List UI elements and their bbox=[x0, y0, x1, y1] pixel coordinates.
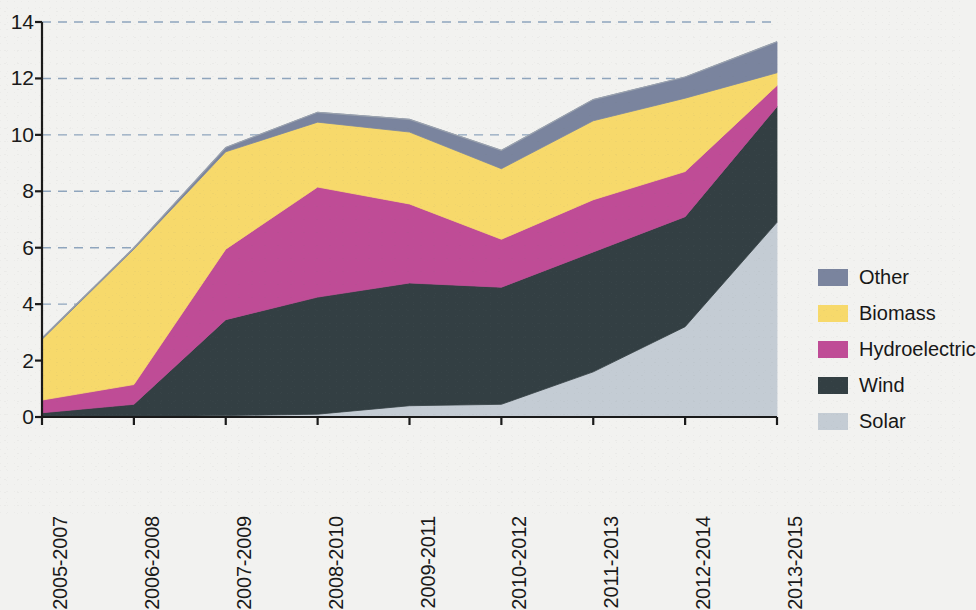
legend-item-hydroelectric[interactable]: Hydroelectric bbox=[818, 334, 962, 364]
x-axis-tick-label: 2013-2015 bbox=[777, 516, 800, 610]
x-axis-tick-label: 2006-2008 bbox=[134, 516, 157, 610]
y-axis-tick-label: 10 bbox=[2, 124, 34, 145]
x-axis-tick-label-text: 2009-2011 bbox=[417, 516, 440, 608]
legend-swatch-biomass bbox=[818, 305, 848, 322]
legend-swatch-other bbox=[818, 269, 848, 286]
x-axis-tick-label: 2005-2007 bbox=[42, 516, 65, 610]
y-axis-tick-label: 4 bbox=[2, 293, 34, 314]
x-axis-tick-label-text: 2007-2009 bbox=[233, 516, 256, 610]
legend-label: Solar bbox=[859, 411, 906, 431]
legend-item-solar[interactable]: Solar bbox=[818, 406, 962, 436]
x-axis-tick-label-text: 2012-2014 bbox=[692, 516, 715, 610]
x-axis-tick-label: 2007-2009 bbox=[226, 516, 249, 610]
y-axis-tick-label: 12 bbox=[2, 67, 34, 88]
legend-swatch-wind bbox=[818, 377, 848, 394]
x-axis-tick-label: 2012-2014 bbox=[685, 516, 708, 610]
x-axis-tick-label-text: 2006-2008 bbox=[141, 516, 164, 610]
legend-label: Biomass bbox=[859, 303, 936, 323]
x-axis-tick-labels: 2005-20072006-20082007-20092008-20102009… bbox=[0, 420, 820, 518]
x-axis-tick-label: 2011-2013 bbox=[593, 516, 616, 608]
y-axis-tick-label: 8 bbox=[2, 180, 34, 201]
y-axis-tick-label: 14 bbox=[2, 11, 34, 32]
legend-item-other[interactable]: Other bbox=[818, 262, 962, 292]
legend-swatch-hydroelectric bbox=[818, 341, 848, 358]
legend-label: Other bbox=[859, 267, 909, 287]
x-axis-tick-label: 2008-2010 bbox=[318, 516, 341, 610]
legend-label: Hydroelectric bbox=[859, 339, 976, 359]
x-axis-tick-label-text: 2011-2013 bbox=[600, 516, 623, 608]
y-axis-tick-label: 6 bbox=[2, 237, 34, 258]
x-axis-tick-label-text: 2010-2012 bbox=[508, 516, 531, 610]
x-axis-tick-label-text: 2013-2015 bbox=[784, 516, 807, 610]
x-axis-tick-label-text: 2005-2007 bbox=[49, 516, 72, 610]
legend-swatch-solar bbox=[818, 413, 848, 430]
x-axis-tick-label: 2009-2011 bbox=[410, 516, 433, 608]
legend-label: Wind bbox=[859, 375, 905, 395]
legend-item-biomass[interactable]: Biomass bbox=[818, 298, 962, 328]
chart-legend: OtherBiomassHydroelectricWindSolar bbox=[818, 262, 962, 442]
x-axis-tick-label-text: 2008-2010 bbox=[325, 516, 348, 610]
legend-item-wind[interactable]: Wind bbox=[818, 370, 962, 400]
y-axis-tick-label: 2 bbox=[2, 350, 34, 371]
x-axis-tick-label: 2010-2012 bbox=[501, 516, 524, 610]
